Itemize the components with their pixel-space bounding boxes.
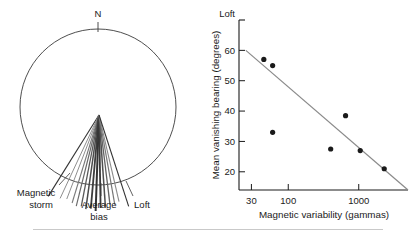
scatter-plot-svg: Loft 2030405060 301001000 Magnetic varia… bbox=[208, 0, 416, 239]
leader-line-loft bbox=[126, 181, 133, 196]
data-point bbox=[270, 130, 275, 135]
average-bias-label-line2: bias bbox=[90, 211, 108, 222]
y-tick-label: 30 bbox=[224, 136, 235, 147]
y-tick-label: 60 bbox=[224, 45, 235, 56]
data-point bbox=[343, 113, 348, 118]
loft-label-circle: Loft bbox=[134, 199, 150, 210]
data-point bbox=[328, 146, 333, 151]
y-tick-label: 40 bbox=[224, 105, 235, 116]
y-axis-title: Mean vanishing bearing (degrees) bbox=[210, 31, 221, 180]
north-label: N bbox=[95, 8, 102, 19]
x-tick-label: 100 bbox=[280, 195, 296, 206]
average-bias-label-line1: Average bbox=[81, 199, 116, 210]
data-point bbox=[261, 57, 266, 62]
x-tick-label: 1000 bbox=[348, 195, 369, 206]
y-tick-label: 20 bbox=[224, 166, 235, 177]
y-axis-loft-label: Loft bbox=[219, 8, 235, 19]
bearing-ray bbox=[99, 115, 129, 206]
magnetic-storm-label-line1: Magnetic bbox=[17, 187, 56, 198]
bearing-ray-group bbox=[48, 115, 129, 211]
x-axis-title: Magnetic variability (gammas) bbox=[259, 209, 389, 220]
y-axis-ticks: 2030405060 bbox=[224, 45, 245, 177]
magnetic-storm-label-line2: storm bbox=[29, 199, 53, 210]
data-point bbox=[358, 148, 363, 153]
x-tick-label: 30 bbox=[246, 195, 257, 206]
data-point bbox=[382, 166, 387, 171]
bearing-ray bbox=[67, 115, 99, 199]
circular-diagram-svg: N Magnetic storm Average bias Loft bbox=[0, 0, 208, 239]
data-point bbox=[270, 63, 275, 68]
figure-container: N Magnetic storm Average bias Loft Loft bbox=[0, 0, 416, 239]
data-point-group bbox=[261, 57, 387, 171]
scatter-plot-panel: Loft 2030405060 301001000 Magnetic varia… bbox=[208, 0, 416, 239]
circular-diagram-panel: N Magnetic storm Average bias Loft bbox=[0, 0, 208, 239]
x-axis-ticks: 301001000 bbox=[246, 184, 369, 206]
y-tick-label: 50 bbox=[224, 75, 235, 86]
footer-separator bbox=[33, 229, 383, 230]
